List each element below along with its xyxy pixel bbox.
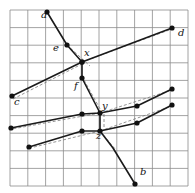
vertex-e: [64, 42, 69, 47]
vertex-right-2: [169, 86, 174, 91]
label-x: x: [84, 48, 90, 58]
label-c: c: [14, 97, 20, 107]
label-b: b: [140, 167, 146, 177]
vertex-lowleft-3: [26, 144, 31, 149]
diagram-canvas: abcdefxyz: [0, 0, 195, 193]
vertex-y: [97, 110, 102, 115]
label-z: z: [96, 131, 101, 141]
label-y: y: [102, 101, 108, 111]
vertex-right-4: [169, 102, 174, 107]
vertex-lowleft-2: [79, 111, 84, 116]
label-f: f: [74, 81, 78, 91]
label-a: a: [41, 10, 47, 20]
vertex-b: [132, 181, 137, 186]
vertex-mid-upper-left: [79, 59, 84, 64]
guide-c-to-x: [13, 64, 82, 99]
label-e: e: [53, 43, 59, 53]
vertex-d: [169, 25, 174, 30]
vertex-right-3: [134, 120, 139, 125]
vertex-lowleft-4: [79, 128, 84, 133]
vertex-f: [79, 75, 84, 80]
vertex-right-1: [134, 103, 139, 108]
label-d: d: [178, 28, 184, 38]
diagram-svg: [0, 0, 195, 193]
grid-layer: [10, 10, 188, 186]
guide-lines-layer: [12, 29, 172, 150]
vertex-lowleft-1: [8, 125, 13, 130]
